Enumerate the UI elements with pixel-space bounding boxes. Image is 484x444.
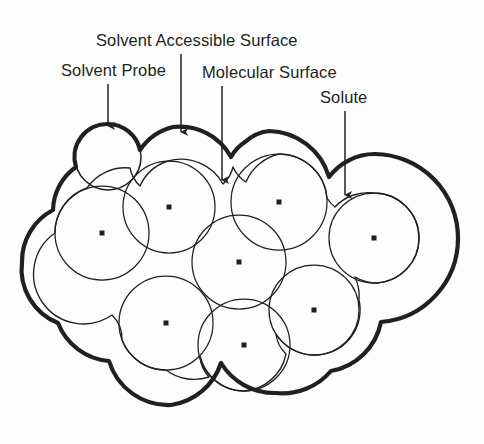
- atom-center-dot-4: [237, 260, 242, 265]
- atom-center-dot-1: [100, 231, 105, 236]
- atom-center-dot-2: [167, 205, 172, 210]
- solvent-probe-circle: [75, 124, 141, 190]
- atom-center-dot-6: [164, 321, 169, 326]
- atom-center-dot-3: [277, 200, 282, 205]
- label-solvent-probe: Solvent Probe: [61, 61, 166, 80]
- label-molecular-surface: Molecular Surface: [202, 63, 337, 82]
- solvent-probe-circle-group: [75, 124, 141, 190]
- atom-center-dot-5: [372, 236, 377, 241]
- atom-center-dot-8: [312, 308, 317, 313]
- atom-center-dots: [100, 200, 377, 348]
- figure-canvas: Solvent Probe Solvent Accessible Surface…: [0, 0, 484, 444]
- label-solvent-accessible-surface: Solvent Accessible Surface: [96, 31, 298, 50]
- label-solute: Solute: [320, 88, 367, 107]
- solvent-accessible-surface-outline: [22, 124, 458, 405]
- atom-center-dot-7: [242, 343, 247, 348]
